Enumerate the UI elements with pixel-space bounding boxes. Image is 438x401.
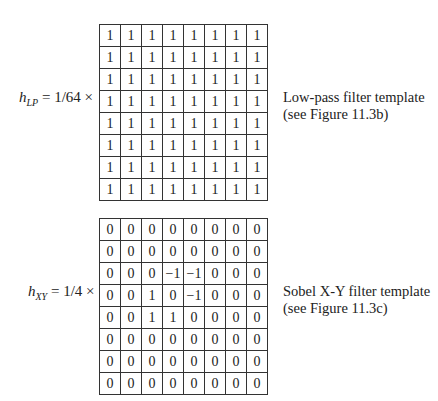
matrix-cell: 1 (100, 157, 121, 179)
matrix-cell: 0 (226, 329, 247, 351)
matrix-cell: 0 (184, 373, 205, 395)
matrix-cell: 1 (226, 113, 247, 135)
matrix-cell: 0 (184, 351, 205, 373)
matrix-cell: 1 (163, 47, 184, 69)
matrix-row: 11111111 (100, 157, 268, 179)
matrix-row: 11111111 (100, 69, 268, 91)
matrix-row: 00000000 (100, 351, 268, 373)
matrix-row: 00000000 (100, 329, 268, 351)
matrix-cell: 1 (121, 25, 142, 47)
matrix-cell: 0 (184, 219, 205, 241)
sobel-filter-matrix: 0000000000000000000−1−10000010−100000110… (99, 218, 268, 395)
matrix-cell: 0 (121, 285, 142, 307)
matrix-cell: 1 (142, 91, 163, 113)
matrix-cell: 0 (142, 373, 163, 395)
matrix-cell: 1 (205, 113, 226, 135)
matrix-cell: 1 (205, 25, 226, 47)
matrix-cell: 0 (142, 329, 163, 351)
matrix-cell: 0 (184, 329, 205, 351)
lowpass-symbol: h (19, 89, 27, 105)
matrix-cell: 1 (205, 69, 226, 91)
matrix-cell: 0 (163, 219, 184, 241)
sobel-caption: Sobel X-Y filter template (see Figure 11… (283, 283, 430, 317)
sobel-symbol: h (28, 283, 36, 299)
matrix-row: 11111111 (100, 25, 268, 47)
matrix-cell: 1 (205, 135, 226, 157)
matrix-cell: 0 (100, 219, 121, 241)
matrix-cell: 1 (184, 179, 205, 201)
matrix-cell: 0 (247, 263, 268, 285)
matrix-cell: 0 (247, 307, 268, 329)
matrix-cell: 1 (184, 157, 205, 179)
matrix-cell: 1 (100, 25, 121, 47)
matrix-cell: 1 (100, 113, 121, 135)
sobel-caption-title: Sobel X-Y filter template (283, 283, 430, 300)
matrix-cell: 0 (163, 351, 184, 373)
matrix-cell: 1 (121, 113, 142, 135)
matrix-cell: 1 (142, 25, 163, 47)
matrix-cell: 0 (100, 263, 121, 285)
matrix-cell: 1 (184, 91, 205, 113)
matrix-cell: 0 (247, 373, 268, 395)
matrix-cell: 0 (226, 263, 247, 285)
lowpass-caption: Low-pass filter template (see Figure 11.… (283, 89, 425, 123)
matrix-cell: 1 (142, 47, 163, 69)
matrix-cell: 1 (163, 179, 184, 201)
matrix-cell: 0 (163, 285, 184, 307)
matrix-cell: 1 (247, 113, 268, 135)
matrix-row: 11111111 (100, 91, 268, 113)
matrix-cell: −1 (184, 285, 205, 307)
matrix-cell: 1 (163, 157, 184, 179)
matrix-row: 11111111 (100, 135, 268, 157)
matrix-cell: 0 (100, 307, 121, 329)
matrix-cell: 1 (226, 25, 247, 47)
matrix-cell: 0 (121, 351, 142, 373)
matrix-cell: 0 (226, 373, 247, 395)
matrix-cell: 1 (121, 135, 142, 157)
sobel-subscript: XY (36, 291, 48, 302)
matrix-cell: 1 (184, 47, 205, 69)
matrix-cell: 1 (247, 47, 268, 69)
lowpass-subscript: LP (27, 97, 39, 108)
matrix-cell: 1 (163, 25, 184, 47)
matrix-cell: 1 (142, 157, 163, 179)
lowpass-caption-reference: (see Figure 11.3b) (283, 106, 425, 123)
matrix-cell: 1 (100, 69, 121, 91)
matrix-cell: 0 (205, 285, 226, 307)
matrix-cell: 0 (226, 219, 247, 241)
matrix-cell: 1 (100, 135, 121, 157)
matrix-cell: 1 (226, 157, 247, 179)
matrix-cell: 0 (205, 263, 226, 285)
matrix-cell: 0 (247, 241, 268, 263)
matrix-row: 000−1−1000 (100, 263, 268, 285)
matrix-cell: 1 (205, 47, 226, 69)
matrix-row: 00000000 (100, 373, 268, 395)
matrix-cell: 1 (163, 113, 184, 135)
matrix-cell: 1 (247, 25, 268, 47)
matrix-cell: 1 (142, 307, 163, 329)
matrix-cell: 1 (205, 91, 226, 113)
matrix-cell: 1 (226, 179, 247, 201)
matrix-cell: 1 (184, 69, 205, 91)
matrix-cell: 0 (121, 373, 142, 395)
matrix-cell: 0 (226, 285, 247, 307)
matrix-cell: 0 (247, 351, 268, 373)
matrix-cell: 1 (184, 113, 205, 135)
matrix-cell: 1 (121, 179, 142, 201)
matrix-cell: 1 (121, 157, 142, 179)
matrix-cell: 1 (247, 157, 268, 179)
matrix-cell: 0 (121, 219, 142, 241)
matrix-cell: 0 (247, 219, 268, 241)
sobel-caption-reference: (see Figure 11.3c) (283, 300, 430, 317)
matrix-cell: 0 (100, 373, 121, 395)
matrix-cell: 1 (205, 157, 226, 179)
matrix-cell: 1 (100, 47, 121, 69)
matrix-cell: 1 (163, 91, 184, 113)
lowpass-filter-matrix: 1111111111111111111111111111111111111111… (99, 24, 268, 201)
matrix-cell: 0 (205, 241, 226, 263)
matrix-cell: 0 (121, 241, 142, 263)
matrix-cell: 0 (226, 307, 247, 329)
matrix-cell: 0 (142, 219, 163, 241)
matrix-cell: 0 (205, 373, 226, 395)
matrix-cell: 0 (100, 241, 121, 263)
